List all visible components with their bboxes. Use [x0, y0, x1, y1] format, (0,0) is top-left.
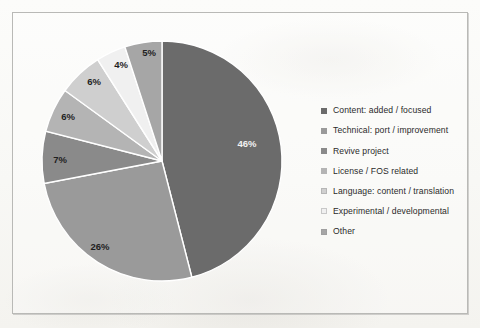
legend-color-swatch: [321, 188, 327, 194]
legend-color-swatch: [321, 148, 327, 154]
chart-legend: Content: added / focusedTechnical: port …: [321, 103, 463, 244]
legend-color-swatch: [321, 128, 327, 134]
slice-value-label: 5%: [142, 47, 156, 58]
legend-item-label: Language: content / translation: [333, 187, 454, 196]
slice-value-label: 4%: [114, 59, 128, 70]
legend-color-swatch: [321, 229, 327, 235]
legend-item: Technical: port / improvement: [321, 123, 463, 138]
legend-color-swatch: [321, 168, 327, 174]
legend-color-swatch: [321, 108, 327, 114]
legend-item: Experimental / developmental: [321, 204, 463, 219]
legend-item-label: Revive project: [333, 147, 389, 156]
legend-item: Revive project: [321, 143, 463, 158]
legend-item: License / FOS related: [321, 164, 463, 179]
slice-value-label: 26%: [90, 241, 110, 252]
pie-slices: [42, 41, 282, 281]
legend-item-label: Experimental / developmental: [333, 207, 449, 216]
slice-value-label: 6%: [87, 76, 101, 87]
legend-item-label: Content: added / focused: [333, 106, 431, 115]
legend-color-swatch: [321, 208, 327, 214]
slice-value-label: 7%: [53, 154, 67, 165]
legend-item: Content: added / focused: [321, 103, 463, 118]
legend-item-label: License / FOS related: [333, 167, 418, 176]
legend-item-label: Technical: port / improvement: [333, 126, 448, 135]
legend-item-label: Other: [333, 227, 355, 236]
slice-value-label: 6%: [61, 111, 75, 122]
slice-value-label: 46%: [237, 138, 257, 149]
legend-item: Other: [321, 224, 463, 239]
legend-item: Language: content / translation: [321, 184, 463, 199]
